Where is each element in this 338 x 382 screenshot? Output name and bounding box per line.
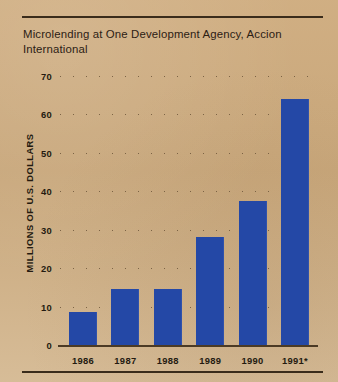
y-axis-tick-label: 50 xyxy=(12,147,52,158)
chart-figure: Microlending at One Development Agency, … xyxy=(0,0,338,382)
gridline xyxy=(60,153,318,154)
plot-area: 010203040506070 198619871988198919901991… xyxy=(60,66,318,346)
y-axis-tick-label: 20 xyxy=(12,263,52,274)
y-axis-tick-label: 70 xyxy=(12,71,52,82)
top-divider-rule xyxy=(22,16,323,18)
bar xyxy=(196,237,224,345)
gridline xyxy=(60,191,318,192)
bar xyxy=(69,312,97,345)
gridline xyxy=(60,268,318,269)
y-axis-tick-label: 10 xyxy=(12,301,52,312)
y-axis-tick-label: 60 xyxy=(12,109,52,120)
x-axis-tick-label: 1989 xyxy=(188,355,232,366)
y-axis-tick-label: 40 xyxy=(12,186,52,197)
y-axis-tick-label: 0 xyxy=(12,340,52,351)
bar xyxy=(281,99,309,345)
gridline xyxy=(60,76,318,77)
gridline xyxy=(60,307,318,308)
x-axis-tick-label: 1986 xyxy=(61,355,105,366)
x-axis-tick-label: 1990 xyxy=(231,355,275,366)
y-axis-tick-label: 30 xyxy=(12,224,52,235)
bottom-divider-rule xyxy=(22,371,323,373)
chart-title: Microlending at One Development Agency, … xyxy=(23,27,313,57)
x-axis-tick-label: 1988 xyxy=(146,355,190,366)
bar xyxy=(154,289,182,345)
x-axis-baseline xyxy=(58,345,318,347)
bar xyxy=(111,289,139,345)
x-axis-tick-label: 1991* xyxy=(273,355,317,366)
gridline xyxy=(60,230,318,231)
gridline xyxy=(60,114,318,115)
bar xyxy=(239,201,267,345)
x-axis-tick-label: 1987 xyxy=(103,355,147,366)
